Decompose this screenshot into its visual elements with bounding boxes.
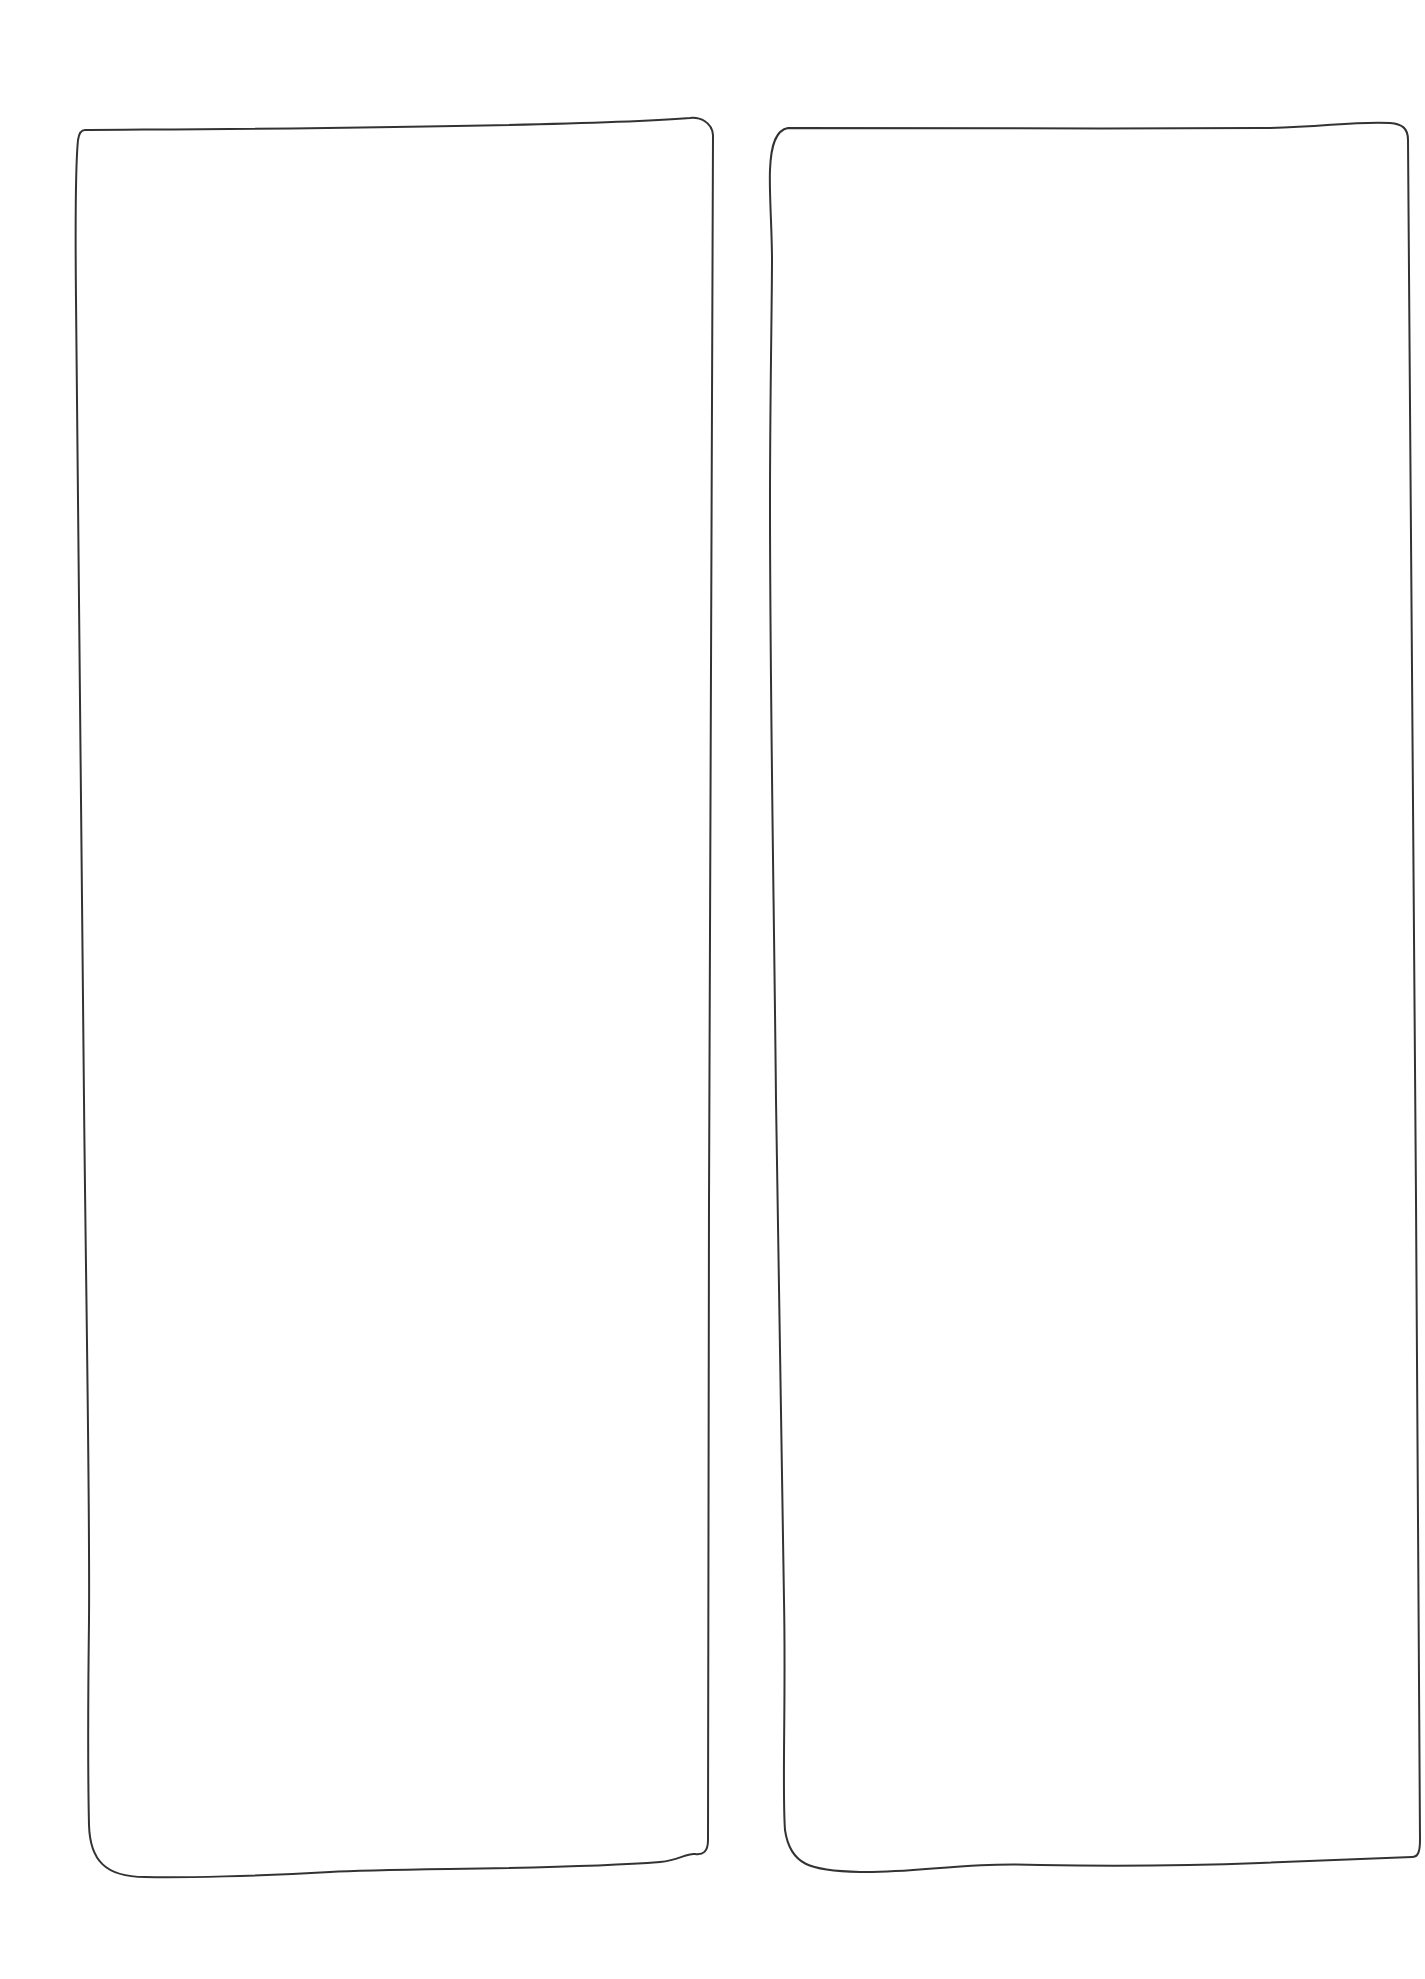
right-frame [770,123,1420,1872]
left-frame [76,118,713,1877]
sketch-canvas [0,0,1425,1979]
